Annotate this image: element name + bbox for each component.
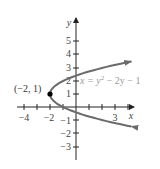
x-tick-label-neg2: −2 bbox=[44, 112, 55, 123]
vertex-label: (−2, 1) bbox=[14, 83, 41, 95]
y-tick-label-2: 2 bbox=[66, 75, 71, 86]
x-tick-label-3: 3 bbox=[113, 112, 118, 123]
parabola-graph: −4 −2 3 5 4 3 2 1 −1 −2 −3 x y (−2, 1) x… bbox=[0, 0, 160, 169]
x-tick-label-neg4: −4 bbox=[19, 112, 30, 123]
y-tick-label-neg3: −3 bbox=[60, 141, 71, 152]
y-tick-label-3: 3 bbox=[66, 62, 71, 73]
y-tick-label-4: 4 bbox=[66, 48, 71, 59]
y-tick-label-neg1: −1 bbox=[60, 115, 71, 126]
y-tick-label-neg2: −2 bbox=[60, 128, 71, 139]
y-tick-label-1: 1 bbox=[66, 88, 71, 99]
equation-label: x = y2 − 2y − 1 bbox=[79, 74, 140, 86]
y-axis-label: y bbox=[66, 17, 72, 28]
vertex-point bbox=[47, 91, 52, 96]
y-tick-label-5: 5 bbox=[66, 35, 71, 46]
x-axis-label: x bbox=[128, 110, 134, 121]
